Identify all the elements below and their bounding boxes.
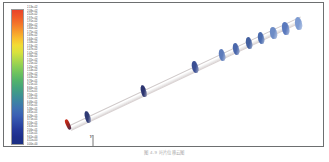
contour-colorbar: 2.13e+022.08e+022.02e+021.97e+021.91e+02… (10, 7, 62, 147)
orientation-axes: Y Z X (72, 131, 114, 147)
colorbar-tick-labels: 2.13e+022.08e+022.02e+021.97e+021.91e+02… (27, 7, 62, 147)
figure-root: 2.13e+022.08e+022.02e+021.97e+021.91e+02… (0, 0, 329, 162)
rotor-blade (294, 16, 304, 30)
figure-caption: 图 4-9 叶片位移云图 (0, 150, 329, 156)
axis-label-y: Y (90, 134, 93, 139)
plot-frame: 2.13e+022.08e+022.02e+021.97e+021.91e+02… (3, 2, 324, 147)
axis-triad-lines (72, 131, 114, 147)
shaft-top-edge (70, 16, 301, 125)
colorbar-gradient-ramp (11, 9, 24, 145)
colorbar-tick-label: 0.00e+00 (27, 143, 62, 146)
shaft-bottom-edge (71, 22, 300, 131)
viewport-3d-scene[interactable]: Y Z X (62, 3, 323, 146)
